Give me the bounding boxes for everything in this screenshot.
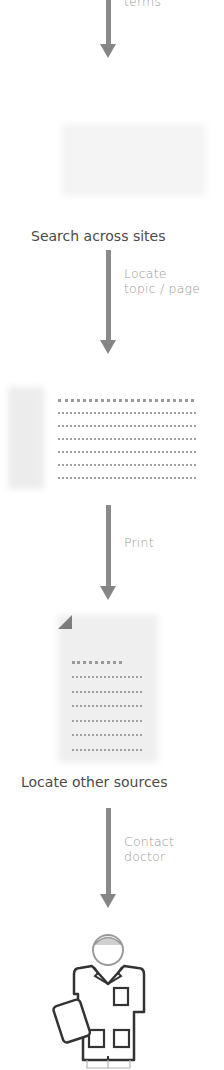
page-line bbox=[72, 661, 122, 664]
page-line bbox=[72, 734, 142, 736]
page-line bbox=[72, 749, 142, 751]
arrow-down-icon bbox=[100, 894, 116, 908]
arrow-shaft-2 bbox=[106, 250, 111, 342]
arrow-shaft-4 bbox=[106, 505, 111, 587]
edge-label-locate-topic: Locate topic / page bbox=[124, 266, 200, 296]
result-line bbox=[58, 477, 196, 479]
arrow-shaft-0 bbox=[106, 0, 111, 45]
result-line bbox=[58, 438, 196, 440]
node-label-locate-other-sources: Locate other sources bbox=[21, 774, 167, 790]
edge-label-line1: Locate bbox=[124, 266, 200, 281]
arrow-shaft-6 bbox=[106, 808, 111, 896]
node-label-search-across-sites: Search across sites bbox=[31, 228, 165, 244]
page-paper bbox=[58, 615, 158, 763]
edge-label-print: Print bbox=[124, 535, 154, 550]
faded-webpage-icon bbox=[62, 124, 206, 196]
search-results-document-icon bbox=[0, 385, 224, 495]
result-line bbox=[58, 425, 196, 427]
page-line bbox=[72, 691, 142, 693]
edge-label-line1: Contact bbox=[124, 834, 174, 849]
edge-label-line2: doctor bbox=[124, 849, 174, 864]
arrow-down-icon bbox=[100, 340, 116, 354]
page-line bbox=[72, 720, 142, 722]
printed-page-icon bbox=[56, 615, 160, 765]
result-line bbox=[58, 464, 196, 466]
arrow-down-icon bbox=[100, 44, 116, 58]
edge-label-contact-doctor: Contact doctor bbox=[124, 834, 174, 864]
result-line bbox=[58, 399, 194, 402]
result-line bbox=[58, 412, 196, 414]
result-line bbox=[58, 451, 196, 453]
edge-label-line2: topic / page bbox=[124, 281, 200, 296]
document-sidebar bbox=[8, 387, 44, 489]
edge-label-terms: terms bbox=[124, 0, 161, 9]
page-line bbox=[72, 705, 142, 707]
doctor-icon bbox=[50, 918, 160, 1070]
page-line bbox=[72, 676, 142, 678]
page-corner-icon bbox=[58, 615, 72, 629]
arrow-down-icon bbox=[100, 586, 116, 600]
